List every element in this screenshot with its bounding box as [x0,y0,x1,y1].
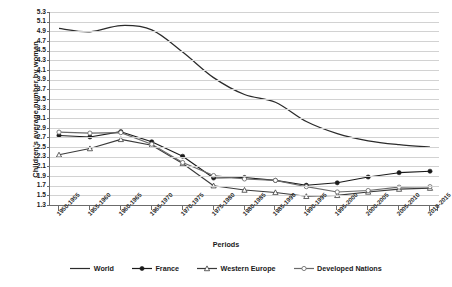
chart-legend: WorldFranceWestern EuropeDeveloped Natio… [0,258,452,278]
y-axis-tick [47,70,51,71]
gridline [50,22,439,23]
y-axis-tick-label: 2.5 [37,144,46,151]
y-axis-tick [47,166,51,167]
data-point-marker [366,188,370,192]
gridline [50,147,439,148]
y-axis-tick [47,118,51,119]
legend-label: France [155,264,179,273]
data-point-marker [397,171,401,175]
y-axis-tick-label: 2.3 [37,153,46,160]
gridline [50,166,439,167]
y-axis-tick-label: 3.1 [37,115,46,122]
y-axis-tick-label: 2.9 [37,125,46,132]
gridline [50,137,439,138]
gridline [50,186,439,187]
gridline [50,99,439,100]
y-axis-tick [47,31,51,32]
legend-item-developed-nations[interactable]: Developed Nations [294,264,382,273]
y-axis-tick-label: 4.1 [37,67,46,74]
y-axis-tick-label: 4.9 [37,28,46,35]
gridline [50,80,439,81]
y-axis-tick-label: 3.7 [37,86,46,93]
y-axis-tick-label: 2.7 [37,134,46,141]
y-axis-tick [47,80,51,81]
gridline [50,41,439,42]
x-axis-title: Periods [0,240,452,249]
y-axis-tick [47,51,51,52]
fertility-line-chart: Children's average number by woman 1.31.… [0,0,452,287]
gridline [50,12,439,13]
gridline [50,70,439,71]
y-axis-tick [47,60,51,61]
legend-marker-none-icon [70,264,90,273]
legend-marker-open-triangle-icon [197,264,217,273]
data-point-marker [150,142,154,146]
data-point-marker [57,130,61,134]
legend-item-western-europe[interactable]: Western Europe [197,264,275,273]
gridline [50,31,439,32]
gridline [50,128,439,129]
series-developed-nations [57,130,432,194]
y-axis-tick [47,195,51,196]
y-axis-tick-label: 5.1 [37,18,46,25]
y-axis-tick [47,109,51,110]
series-line [59,25,430,147]
y-axis-tick-label: 1.5 [37,192,46,199]
y-axis-tick-label: 1.9 [37,173,46,180]
gridline [50,60,439,61]
y-axis-tick [47,147,51,148]
plot-area [49,12,439,205]
data-point-marker [119,131,123,135]
gridline [50,51,439,52]
y-axis-tick [47,137,51,138]
y-axis-tick-label: 5.3 [37,9,46,16]
y-axis-tick-label: 3.5 [37,96,46,103]
y-axis-tick-labels: 1.31.51.71.92.12.32.52.72.93.13.33.53.73… [30,0,46,215]
y-axis-tick [47,99,51,100]
y-axis-tick-label: 3.9 [37,76,46,83]
legend-item-france[interactable]: France [132,264,179,273]
y-axis-tick-label: 4.5 [37,47,46,54]
gridline [50,89,439,90]
legend-label: World [94,264,114,273]
y-axis-tick [47,89,51,90]
series-world [59,25,430,147]
y-axis-tick [47,176,51,177]
legend-label: Developed Nations [317,264,382,273]
gridline [50,109,439,110]
y-axis-tick [47,12,51,13]
y-axis-tick-label: 4.7 [37,38,46,45]
data-point-marker [335,181,339,185]
data-point-marker [88,131,92,135]
data-point-marker [273,178,277,182]
data-point-marker [181,160,185,164]
gridline [50,157,439,158]
legend-item-world[interactable]: World [70,264,114,273]
y-axis-tick-label: 1.3 [37,202,46,209]
data-point-marker [428,169,432,173]
legend-marker-filled-diamond-icon [132,264,152,273]
data-point-marker [242,177,246,181]
y-axis-tick [47,186,51,187]
y-axis-tick [47,128,51,129]
y-axis-tick [47,41,51,42]
y-axis-tick [47,22,51,23]
gridline [50,176,439,177]
y-axis-tick-label: 2.1 [37,163,46,170]
legend-label: Western Europe [221,264,276,273]
data-point-marker [335,190,339,194]
y-axis-tick [47,157,51,158]
y-axis-tick-label: 4.3 [37,57,46,64]
y-axis-tick-label: 1.7 [37,182,46,189]
legend-marker-open-circle-icon [294,264,314,273]
gridline [50,118,439,119]
y-axis-tick-label: 3.3 [37,105,46,112]
